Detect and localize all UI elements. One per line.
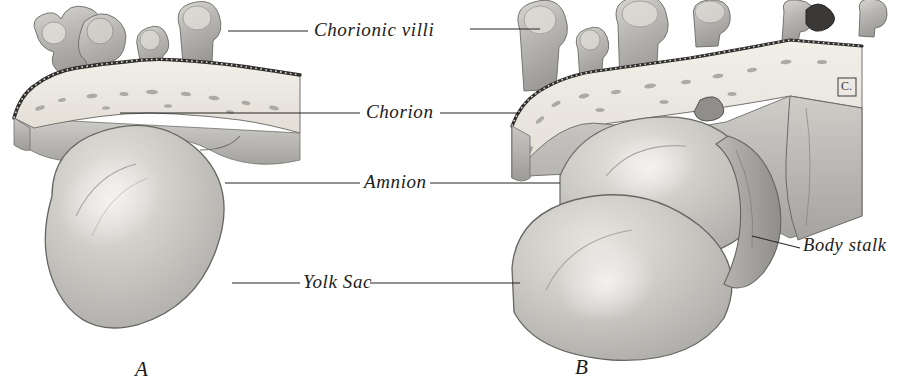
label-amnion: Amnion <box>364 171 427 193</box>
label-body-stalk: Body stalk <box>803 235 887 256</box>
panel-letter-b: B <box>575 355 588 380</box>
panel-letter-a: A <box>135 357 148 382</box>
figure-plate: Chorionic villi Chorion Amnion Yolk Sac … <box>0 0 909 389</box>
panel-b-villus-dark-notch <box>806 4 835 31</box>
label-chorion: Chorion <box>366 101 434 123</box>
label-chorionic-villi: Chorionic villi <box>314 19 434 41</box>
panel-b-illustration <box>512 0 887 360</box>
signature-text: C. <box>841 79 852 94</box>
label-yolk-sac: Yolk Sac <box>303 271 372 293</box>
panel-b-chorion-cut-edge <box>512 126 530 181</box>
illustration-canvas <box>0 0 909 389</box>
panel-b-chorion-flap <box>786 96 862 240</box>
panel-a-illustration <box>14 2 300 329</box>
